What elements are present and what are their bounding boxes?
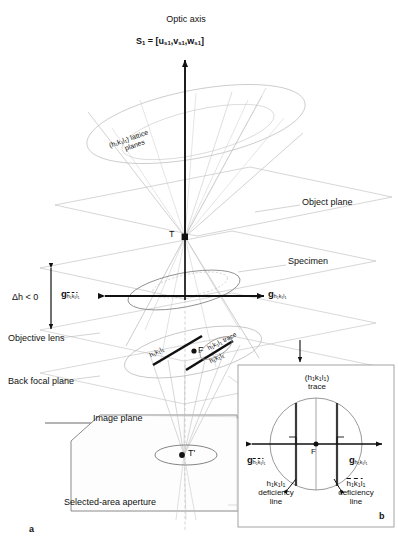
delta-h-label: Δh < 0 <box>12 292 38 302</box>
image-plane-label: Image plane <box>93 413 143 423</box>
g-vector-right-label: gh1k1l1 <box>268 289 286 300</box>
inset-g-right-label: gh1k1l1 <box>349 455 367 466</box>
point-T-prime-label: T' <box>188 448 195 458</box>
inset-left-deficiency-label: h1k1l1 deficiency line <box>245 479 307 507</box>
inset-focal-point-label: F <box>311 447 316 456</box>
lattice-plane-fan <box>185 88 266 237</box>
point-F-label: F <box>198 345 204 355</box>
optic-axis-label: Optic axis <box>141 14 231 24</box>
tem-ray-diagram <box>0 0 398 542</box>
objective-lens-label: Objective lens <box>8 333 65 343</box>
upper-cone-generators <box>112 93 284 237</box>
inset-right-deficiency-label: h1k1l1 deficiency line <box>325 479 387 507</box>
inset-focal-point-marker <box>314 442 319 447</box>
panel-a-label: a <box>29 524 34 534</box>
selected-area-aperture-label: Selected-area aperture <box>64 497 156 507</box>
panel-b-label: b <box>379 511 385 521</box>
specimen-label: Specimen <box>288 256 328 266</box>
point-T-prime-marker <box>179 452 185 458</box>
beam-direction-vector: S1 = [us1,vs1,ws1] <box>136 36 204 47</box>
point-T-label: T <box>169 229 175 239</box>
point-T-marker <box>182 234 188 240</box>
label-leader-lines <box>60 205 300 381</box>
inset-trace-label: (h1k1l1) trace <box>281 373 353 391</box>
inset-g-left-label: gh1k1l1 <box>247 455 265 466</box>
g-vector-left-label: gh1k1l1 <box>61 289 79 300</box>
point-F-marker <box>191 348 196 353</box>
object-plane-label: Object plane <box>302 197 353 207</box>
back-focal-plane-label: Back focal plane <box>8 376 74 386</box>
